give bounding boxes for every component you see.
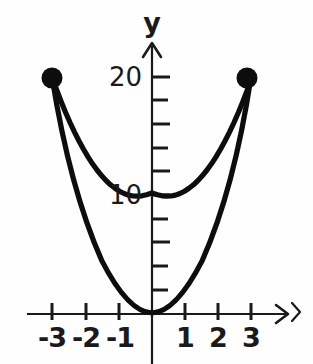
x-tick-label-neg2: -2: [72, 322, 100, 353]
graph-canvas: y 20 10 -3 -2 -1 1 2 3: [0, 0, 313, 364]
y-tick-label-10: 10: [109, 180, 142, 210]
x-tick-label-1: 1: [176, 322, 194, 353]
x-axis-extra-chevron-icon: [292, 303, 300, 321]
parabola-graph-figure: y 20 10 -3 -2 -1 1 2 3: [0, 0, 313, 364]
x-tick-label-neg1: -1: [106, 322, 134, 353]
x-tick-label-neg3: -3: [38, 322, 66, 353]
endpoint-dot-right: [237, 68, 258, 89]
y-tick-label-20: 20: [109, 62, 142, 92]
x-tick-label-2: 2: [209, 322, 227, 353]
x-tick-label-3: 3: [242, 322, 260, 353]
y-axis-label: y: [143, 7, 161, 38]
endpoint-dot-left: [42, 68, 63, 89]
